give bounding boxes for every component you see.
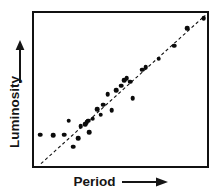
plot-frame: [32, 11, 209, 168]
data-point: [156, 57, 161, 62]
data-point: [101, 103, 106, 108]
data-point: [128, 80, 133, 85]
data-point: [66, 119, 71, 124]
x-axis-label: Period: [73, 175, 115, 189]
data-point: [91, 116, 96, 121]
data-point: [114, 88, 119, 93]
y-axis-label-group: Luminosity: [0, 18, 30, 168]
data-point: [201, 16, 206, 21]
data-point: [143, 65, 148, 70]
right-arrow-icon: [122, 176, 168, 188]
data-point: [76, 136, 81, 141]
data-point: [38, 132, 43, 137]
y-axis-label: Luminosity: [8, 76, 22, 148]
data-point: [110, 108, 115, 113]
data-point: [185, 26, 190, 31]
data-point: [95, 107, 100, 112]
plot-area: [34, 13, 207, 166]
period-luminosity-chart: Luminosity Period: [0, 0, 221, 193]
data-point: [51, 133, 56, 138]
trendline: [34, 13, 207, 166]
data-point: [105, 92, 110, 97]
data-point: [62, 132, 67, 137]
data-point: [130, 96, 135, 101]
data-point: [87, 130, 92, 135]
x-axis-label-group: Period: [32, 170, 209, 193]
data-point: [98, 112, 103, 117]
y-axis-label-rotator: Luminosity: [4, 26, 26, 148]
trendline-segment: [41, 15, 205, 163]
data-point: [172, 44, 177, 49]
data-point: [119, 83, 124, 88]
data-point: [71, 145, 76, 150]
